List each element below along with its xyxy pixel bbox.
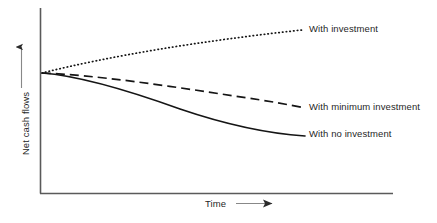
series-line-with-minimum-investment: [42, 73, 305, 108]
series-line-with-investment: [42, 30, 302, 73]
x-axis-label: Time: [205, 198, 226, 209]
series-label-with-no-investment: With no investment: [309, 128, 392, 139]
series-label-with-investment: With investment: [309, 23, 378, 34]
series-label-with-minimum-investment: With minimum investment: [309, 101, 420, 112]
chart-container: With investment With minimum investment …: [0, 0, 437, 223]
y-axis-label: Net cash flows: [20, 79, 31, 169]
series-line-with-no-investment: [42, 73, 305, 136]
